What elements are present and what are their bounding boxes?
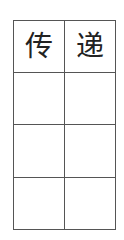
grid-cell-r1-c2: 递 [65, 21, 116, 73]
grid-cell-r3-c2 [65, 125, 116, 178]
grid-cell-r1-c1: 传 [14, 21, 65, 73]
grid-cell-r2-c1 [14, 73, 65, 125]
grid-cell-r2-c2 [65, 73, 116, 125]
grid-cell-r4-c2 [65, 178, 116, 230]
character-writing-grid: 传 递 [13, 20, 116, 230]
grid-cell-r4-c1 [14, 178, 65, 230]
grid-cell-r3-c1 [14, 125, 65, 178]
